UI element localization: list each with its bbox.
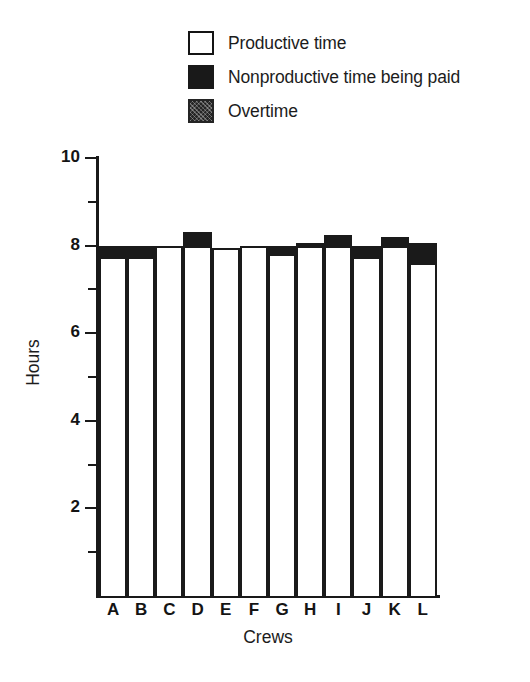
y-axis-major-tick — [85, 245, 97, 247]
y-axis-minor-tick — [88, 376, 97, 378]
bar-segment-productive — [183, 246, 211, 596]
legend-label-overtime: Overtime — [228, 101, 298, 122]
x-axis-title: Crews — [99, 627, 437, 648]
bar-segment-productive — [212, 248, 240, 596]
bar-column — [268, 158, 296, 596]
y-axis-minor-tick — [88, 464, 97, 466]
bar-series-group — [99, 158, 437, 596]
chart-figure: Productive time Nonproductive time being… — [0, 0, 530, 682]
x-axis-tick-label: F — [240, 599, 268, 621]
bar-segment-nonproductive — [183, 232, 211, 245]
bar-segment-nonproductive — [127, 246, 155, 257]
bar-column — [409, 158, 437, 596]
legend-label-nonproductive-time: Nonproductive time being paid — [228, 67, 460, 88]
x-axis-tick-label: C — [155, 599, 183, 621]
x-axis-tick-label: H — [296, 599, 324, 621]
x-axis-tick-label: K — [381, 599, 409, 621]
legend-swatch-productive-icon — [188, 31, 214, 55]
bar-column — [352, 158, 380, 596]
x-axis-tick-label: I — [324, 599, 352, 621]
chart-legend: Productive time Nonproductive time being… — [188, 26, 518, 128]
bar-column — [127, 158, 155, 596]
bar-column — [381, 158, 409, 596]
bar-segment-nonproductive — [99, 246, 127, 257]
bar-column — [183, 158, 211, 596]
bar-column — [324, 158, 352, 596]
bar-segment-productive — [324, 246, 352, 596]
x-axis-tick-labels: ABCDEFGHIJKL — [99, 599, 437, 621]
bar-column — [240, 158, 268, 596]
x-axis-tick-label: A — [99, 599, 127, 621]
y-axis-major-tick — [85, 420, 97, 422]
legend-label-productive-time: Productive time — [228, 33, 346, 54]
legend-item-nonproductive-time: Nonproductive time being paid — [188, 60, 518, 94]
y-axis-tick-label: 8 — [46, 235, 80, 255]
y-axis-tick-label: 2 — [46, 497, 80, 517]
bar-segment-productive — [155, 246, 183, 596]
bar-column — [296, 158, 324, 596]
x-axis-tick-label: D — [183, 599, 211, 621]
bar-segment-productive — [240, 246, 268, 596]
bar-segment-nonproductive — [409, 243, 437, 263]
legend-swatch-nonproductive-icon — [188, 65, 214, 89]
bar-segment-productive — [352, 257, 380, 596]
y-axis-major-tick — [85, 157, 97, 159]
y-axis-tick-label: 10 — [46, 147, 80, 167]
y-axis-minor-tick — [88, 551, 97, 553]
y-axis-minor-tick — [88, 201, 97, 203]
bar-segment-productive — [268, 254, 296, 596]
bar-segment-nonproductive — [324, 235, 352, 246]
x-axis-tick-label: J — [352, 599, 380, 621]
y-axis-tick-label: 6 — [46, 322, 80, 342]
x-axis-tick-label: B — [127, 599, 155, 621]
bar-segment-productive — [296, 246, 324, 596]
x-axis-tick-label: G — [268, 599, 296, 621]
y-axis-major-tick — [85, 507, 97, 509]
bar-column — [155, 158, 183, 596]
x-axis-tick-label: E — [212, 599, 240, 621]
bar-segment-productive — [381, 246, 409, 596]
bar-column — [212, 158, 240, 596]
bar-segment-nonproductive — [381, 237, 409, 246]
bar-segment-productive — [127, 257, 155, 596]
bar-segment-nonproductive — [352, 246, 380, 257]
bar-segment-productive — [409, 263, 437, 596]
bar-column — [99, 158, 127, 596]
y-axis-tick-label: 4 — [46, 410, 80, 430]
y-axis-minor-tick — [88, 288, 97, 290]
legend-item-overtime: Overtime — [188, 94, 518, 128]
x-axis-tick-label: L — [409, 599, 437, 621]
bar-segment-productive — [99, 257, 127, 596]
y-axis-title: Hours — [23, 318, 44, 408]
bar-segment-nonproductive — [268, 246, 296, 255]
y-axis-major-tick — [85, 332, 97, 334]
legend-item-productive-time: Productive time — [188, 26, 518, 60]
legend-swatch-overtime-icon — [188, 99, 214, 123]
